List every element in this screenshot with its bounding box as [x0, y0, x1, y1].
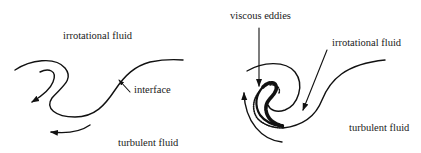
left-turbulent-fluid-label: turbulent fluid — [118, 138, 178, 149]
lower-flow-arrow — [51, 125, 90, 133]
irrotational-pointer-arrow — [303, 50, 327, 110]
viscous-eddies-label: viscous eddies — [230, 11, 291, 22]
inner-flow-arrow — [32, 70, 54, 102]
right-turbulent-fluid-label: turbulent fluid — [349, 123, 409, 134]
left-irrotational-fluid-label: irrotational fluid — [63, 31, 132, 42]
interface-pointer-arrow — [119, 80, 130, 92]
diagram-canvas: irrotational fluid interface turbulent f… — [0, 0, 421, 153]
left-interface-label: interface — [134, 85, 171, 96]
right-irrotational-fluid-label: irrotational fluid — [332, 38, 401, 49]
spiral-outer-curve — [247, 64, 300, 112]
left-panel — [15, 60, 183, 133]
